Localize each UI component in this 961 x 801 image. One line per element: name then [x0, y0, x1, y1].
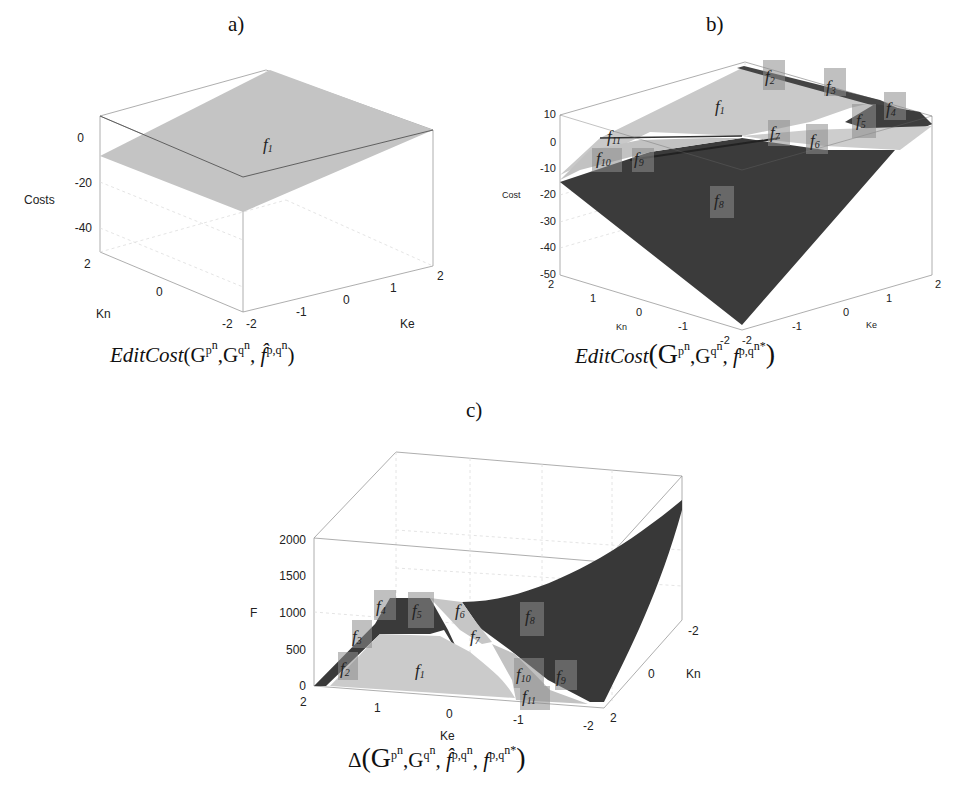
panel-a-ylabel: Kn	[96, 307, 111, 321]
svg-text:-40: -40	[75, 221, 93, 235]
svg-text:-1: -1	[792, 320, 802, 332]
panel-a-caption: EditCost(Gpn,Gqn, f̂p,qn)	[110, 338, 294, 368]
svg-text:10: 10	[544, 108, 556, 120]
svg-text:1: 1	[590, 292, 596, 304]
svg-text:0: 0	[343, 293, 350, 307]
svg-text:1000: 1000	[279, 606, 306, 620]
panel-c-plot: f1 f2 f3 f4 f5 f6 f7 f8 f9 f10 f11 2000 …	[230, 390, 730, 801]
svg-text:2: 2	[300, 695, 307, 709]
svg-text:0: 0	[446, 707, 453, 721]
svg-text:-2: -2	[222, 317, 233, 331]
panel-c-ylabel: Kn	[686, 667, 701, 681]
panel-c-zlabel: F	[250, 606, 257, 620]
svg-text:0: 0	[77, 131, 84, 145]
svg-text:1: 1	[374, 701, 381, 715]
panel-b-zlabel: Cost	[502, 190, 521, 200]
panel-a-zticks: 0 -20 -40	[75, 131, 93, 235]
svg-text:-2: -2	[583, 719, 594, 733]
svg-text:-1: -1	[513, 713, 524, 727]
panel-a: a) 0 -20 -40 Costs	[0, 0, 480, 400]
svg-text:0: 0	[550, 136, 556, 148]
svg-text:-1: -1	[296, 305, 307, 319]
panel-b-caption: EditCost(Gpn,Gqn, fp,qn*)	[575, 338, 775, 370]
panel-b-xlabel: Ke	[866, 320, 877, 330]
panel-a-xlabel: Ke	[400, 317, 415, 331]
svg-text:-30: -30	[540, 215, 556, 227]
panel-c-caption: Δ(Gpn,Gqn, f̂p,qn, fp,qn*)	[348, 742, 526, 774]
svg-text:0: 0	[299, 679, 306, 693]
panel-c-xlabel: Ke	[440, 729, 455, 743]
svg-text:-2: -2	[688, 624, 699, 638]
svg-text:2: 2	[84, 257, 91, 271]
svg-text:-2: -2	[246, 317, 257, 331]
panel-b-zticks: 10 0 -10 -20 -30 -40 -50	[540, 108, 556, 280]
svg-text:-10: -10	[540, 162, 556, 174]
svg-text:2: 2	[548, 278, 554, 290]
svg-text:2: 2	[437, 269, 444, 283]
panel-c: c)	[230, 390, 730, 801]
panel-b-ylabel: Kn	[616, 322, 627, 332]
svg-text:2: 2	[610, 711, 617, 725]
svg-text:-40: -40	[540, 241, 556, 253]
panel-a-zlabel: Costs	[24, 193, 55, 207]
panel-c-zticks: 2000 1500 1000 500 0	[279, 533, 306, 693]
svg-text:1: 1	[886, 292, 892, 304]
svg-text:1: 1	[390, 281, 397, 295]
svg-text:-20: -20	[75, 176, 93, 190]
svg-text:0: 0	[156, 285, 163, 299]
svg-text:-1: -1	[678, 320, 688, 332]
svg-text:0: 0	[636, 306, 642, 318]
svg-text:2: 2	[935, 278, 941, 290]
svg-text:-20: -20	[540, 188, 556, 200]
svg-text:0: 0	[648, 667, 655, 681]
svg-text:0: 0	[843, 306, 849, 318]
svg-text:1500: 1500	[279, 569, 306, 583]
panel-b: b)	[480, 0, 961, 400]
svg-text:500: 500	[286, 643, 306, 657]
svg-text:2000: 2000	[279, 533, 306, 547]
